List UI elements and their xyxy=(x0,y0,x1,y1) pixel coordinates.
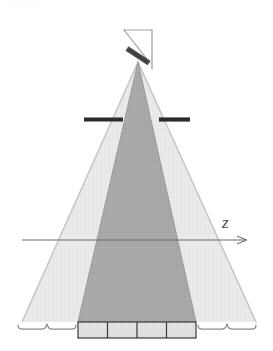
beam-geometry-svg: ............ xyxy=(0,0,273,351)
left-brace-path xyxy=(18,324,76,329)
left-brace xyxy=(18,324,76,329)
right-brace xyxy=(198,324,256,329)
figure-root: ............ xyxy=(0,0,273,351)
z-axis-label: z xyxy=(221,213,229,232)
detector-element-array xyxy=(78,322,196,338)
clipped-header-text: ............ xyxy=(6,0,39,6)
clipped-header-label: ............ xyxy=(6,0,39,6)
right-brace-path xyxy=(198,324,256,329)
